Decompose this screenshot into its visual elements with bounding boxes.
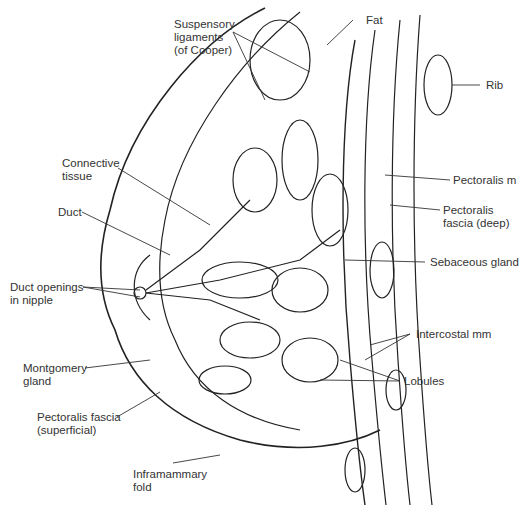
label-connective-tissue: Connective tissue (62, 157, 120, 183)
label-duct: Duct (58, 206, 82, 219)
label-fat: Fat (366, 14, 383, 27)
label-pectoralis-m: Pectoralis m (453, 174, 516, 187)
label-montgomery-gland: Montgomery gland (23, 362, 87, 388)
label-lobules: Lobules (404, 375, 444, 388)
label-inframammary-fold: Inframammary fold (133, 468, 207, 494)
label-suspensory-ligaments: Suspensory ligaments (of Cooper) (174, 18, 235, 57)
label-pectoralis-fascia-deep: Pectoralis fascia (deep) (443, 204, 509, 230)
label-rib: Rib (486, 79, 503, 92)
label-duct-openings: Duct openings in nipple (10, 281, 84, 307)
label-sebaceous-gland: Sebaceous gland (430, 256, 519, 269)
label-intercostal-mm: Intercostal mm (416, 328, 491, 341)
label-pectoralis-fascia-superficial: Pectoralis fascia (superficial) (37, 411, 121, 437)
